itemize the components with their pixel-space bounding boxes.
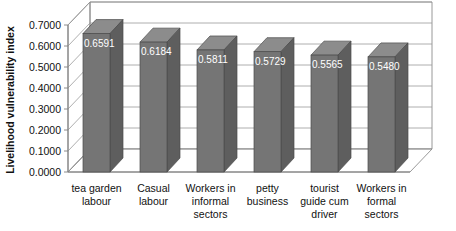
category-label-2: informal bbox=[192, 195, 229, 207]
y-axis-title: Livelihood vulnerability index bbox=[4, 26, 16, 174]
ytick-label-0: 0.0000 bbox=[29, 166, 61, 178]
category-label-5: formal bbox=[367, 195, 396, 207]
category-label-5: sectors bbox=[365, 208, 399, 220]
livelihood-vulnerability-chart: 0.00000.10000.20000.30000.40000.50000.60… bbox=[0, 0, 456, 231]
ytick-label-7: 0.7000 bbox=[29, 19, 61, 31]
category-label-1: labour bbox=[139, 195, 169, 207]
bar-1[interactable]: 0.6184 bbox=[140, 28, 180, 172]
category-label-0: labour bbox=[82, 195, 112, 207]
bar-front-face-1 bbox=[140, 42, 167, 172]
category-label-0: tea garden bbox=[71, 182, 121, 194]
bar-4[interactable]: 0.5565 bbox=[311, 41, 351, 172]
bar-0[interactable]: 0.6591 bbox=[83, 20, 123, 172]
bar-front-face-3 bbox=[254, 52, 281, 172]
bar-value-label-0: 0.6591 bbox=[84, 38, 115, 49]
bar-front-face-0 bbox=[83, 34, 110, 172]
category-label-2: Workers in bbox=[186, 182, 236, 194]
ytick-label-3: 0.3000 bbox=[29, 103, 61, 115]
bar-5[interactable]: 0.5480 bbox=[368, 43, 408, 172]
gridline-depth-7 bbox=[68, 2, 90, 25]
bar-value-label-4: 0.5565 bbox=[312, 59, 343, 70]
category-label-4: driver bbox=[311, 208, 338, 220]
bar-3[interactable]: 0.5729 bbox=[254, 38, 294, 172]
category-label-1: Casual bbox=[137, 182, 170, 194]
category-label-3: business bbox=[247, 195, 288, 207]
bar-front-face-5 bbox=[368, 57, 395, 172]
ytick-label-2: 0.2000 bbox=[29, 124, 61, 136]
bar-value-label-1: 0.6184 bbox=[141, 46, 172, 57]
bar-value-label-3: 0.5729 bbox=[255, 56, 286, 67]
category-label-3: petty bbox=[256, 182, 280, 194]
category-label-4: guide cum bbox=[300, 195, 349, 207]
bar-front-face-2 bbox=[197, 50, 224, 172]
category-label-5: Workers in bbox=[357, 182, 407, 194]
ytick-label-4: 0.4000 bbox=[29, 82, 61, 94]
ytick-label-5: 0.5000 bbox=[29, 61, 61, 73]
bar-front-face-4 bbox=[311, 55, 338, 172]
category-label-4: tourist bbox=[310, 182, 339, 194]
chart-canvas: 0.00000.10000.20000.30000.40000.50000.60… bbox=[0, 0, 456, 231]
ytick-label-6: 0.6000 bbox=[29, 40, 61, 52]
bar-2[interactable]: 0.5811 bbox=[197, 36, 237, 172]
category-label-2: sectors bbox=[194, 208, 228, 220]
ytick-label-1: 0.1000 bbox=[29, 145, 61, 157]
bar-value-label-2: 0.5811 bbox=[198, 54, 228, 65]
bar-value-label-5: 0.5480 bbox=[369, 61, 400, 72]
